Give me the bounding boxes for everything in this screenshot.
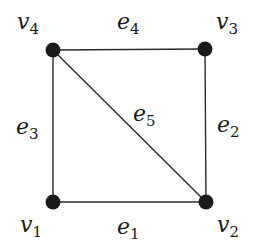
edge-label-symbol: e xyxy=(117,9,130,34)
vertex-v1 xyxy=(46,195,61,210)
edge-label-subscript: 5 xyxy=(146,112,156,130)
vertex-label-subscript: 3 xyxy=(228,20,238,38)
edges-group xyxy=(53,49,206,202)
vertex-label-symbol: v xyxy=(20,212,33,237)
vertex-label-v4: v4 xyxy=(17,9,39,38)
vertex-label-symbol: v xyxy=(17,9,30,34)
edge-label-e3: e3 xyxy=(16,114,39,143)
vertex-label-subscript: 1 xyxy=(32,223,42,241)
edge-label-subscript: 3 xyxy=(29,125,39,143)
edge-e5 xyxy=(53,50,206,202)
vertex-v3 xyxy=(198,42,213,57)
vertex-label-symbol: v xyxy=(217,212,230,237)
vertex-label-v2: v2 xyxy=(217,212,239,241)
edge-label-subscript: 2 xyxy=(230,123,240,141)
edge-label-e1: e1 xyxy=(117,214,140,243)
edge-label-subscript: 4 xyxy=(130,20,140,38)
vertex-label-subscript: 4 xyxy=(29,20,39,38)
edge-e4 xyxy=(53,49,205,50)
vertex-v4 xyxy=(46,43,61,58)
edge-label-symbol: e xyxy=(217,112,230,137)
edge-label-e4: e4 xyxy=(117,9,140,38)
edge-label-symbol: e xyxy=(117,214,130,239)
vertex-label-v1: v1 xyxy=(20,212,42,241)
graph-diagram: e1e2e3e4e5v1v2v3v4 xyxy=(0,0,255,251)
vertex-label-v3: v3 xyxy=(216,9,238,38)
edge-label-symbol: e xyxy=(133,101,146,126)
edge-label-e2: e2 xyxy=(217,112,240,141)
vertex-label-symbol: v xyxy=(216,9,229,34)
edge-label-e5: e5 xyxy=(133,101,156,130)
edge-e2 xyxy=(205,49,206,202)
edge-label-symbol: e xyxy=(16,114,29,139)
vertex-v2 xyxy=(199,195,214,210)
edge-label-subscript: 1 xyxy=(130,225,140,243)
vertex-label-subscript: 2 xyxy=(229,223,239,241)
